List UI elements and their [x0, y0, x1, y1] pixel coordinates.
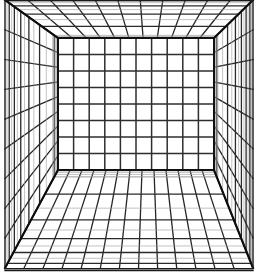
perspective-room-drawing: One-point perspective grid room Black-an… [0, 0, 257, 273]
back-wall-surface [58, 38, 214, 170]
perspective-scene-svg [0, 0, 257, 273]
